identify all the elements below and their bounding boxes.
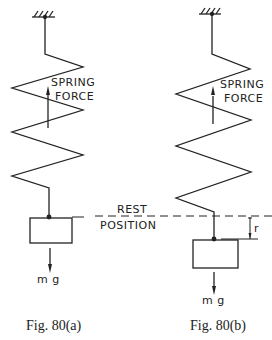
spring-force-label-b-line1: SPRING (220, 78, 264, 91)
displacement-indicator (221, 217, 258, 239)
weight-label-b: m g (202, 294, 225, 307)
mass-block-a (30, 218, 72, 243)
rest-position-line (72, 216, 272, 217)
spring-force-label-a-line1: SPRING (51, 76, 95, 89)
fixed-support-icon (199, 8, 221, 14)
spring-force-label-a-line2: FORCE (55, 90, 94, 103)
weight-label-a: m g (37, 273, 60, 286)
arrow-up-icon (46, 86, 50, 95)
spring-force-label-b-line2: FORCE (224, 92, 263, 105)
arrow-down-icon (48, 264, 52, 273)
caption-b: Fig. 80(b) (190, 318, 246, 334)
arrow-up-icon (211, 86, 215, 95)
rest-label-line1: REST (117, 203, 147, 216)
spring-mass-diagram: SPRING FORCE SPRING FORCE REST POSITION … (0, 0, 272, 340)
figure-a (12, 11, 83, 273)
displacement-label: r (254, 222, 259, 235)
spring-b (176, 14, 251, 240)
figure-b (176, 8, 258, 295)
caption-a: Fig. 80(a) (26, 318, 82, 334)
mass-block-b (193, 240, 238, 268)
rest-label-line2: POSITION (100, 219, 156, 232)
